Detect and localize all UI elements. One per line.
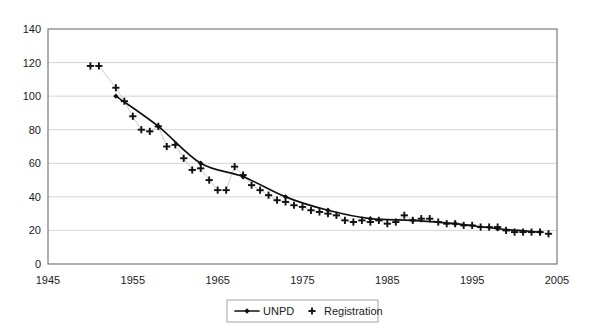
- y-tick-label: 80: [29, 124, 41, 136]
- x-tick-label: 1975: [290, 274, 314, 286]
- legend-label-registration: Registration: [324, 305, 383, 317]
- chart-legend[interactable]: UNPDRegistration: [227, 300, 383, 322]
- x-tick-label: 1965: [205, 274, 229, 286]
- x-tick-label: 1945: [36, 274, 60, 286]
- y-tick-label: 120: [23, 57, 41, 69]
- y-tick-label: 0: [35, 258, 41, 270]
- y-tick-label: 100: [23, 90, 41, 102]
- chart-container: 140120100806040200 194519551965197519851…: [0, 0, 597, 329]
- y-tick-label: 140: [23, 23, 41, 35]
- y-tick-label: 40: [29, 191, 41, 203]
- y-tick-label: 20: [29, 224, 41, 236]
- x-tick-label: 1995: [460, 274, 484, 286]
- y-tick-label: 60: [29, 157, 41, 169]
- mortality-rate-line-chart: 140120100806040200 194519551965197519851…: [0, 0, 597, 329]
- x-tick-label: 1955: [121, 274, 145, 286]
- legend-label-unpd: UNPD: [263, 305, 294, 317]
- x-tick-label: 1985: [375, 274, 399, 286]
- x-tick-label: 2005: [545, 274, 569, 286]
